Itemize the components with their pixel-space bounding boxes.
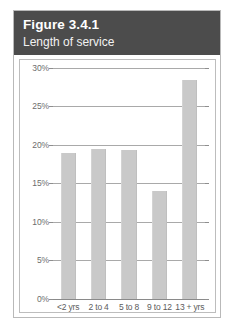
figure-header: Figure 3.4.1 Length of service xyxy=(14,11,220,55)
y-tick-label: 10% xyxy=(32,217,49,227)
x-tick-label: <2 yrs xyxy=(57,302,79,312)
y-tick-mark-right xyxy=(205,299,209,300)
y-tick-mark-right xyxy=(205,183,209,184)
x-tick-label: 9 to 12 xyxy=(147,302,172,312)
figure-title: Figure 3.4.1 xyxy=(23,16,220,33)
bar--2-yrs xyxy=(61,153,76,299)
y-tick-label: 20% xyxy=(32,140,49,150)
y-tick-label: 5% xyxy=(37,255,49,265)
y-tick-label: 30% xyxy=(32,63,49,73)
x-tick-label: 5 to 8 xyxy=(119,302,139,312)
figure-subtitle: Length of service xyxy=(23,34,220,50)
bar-2-to-4 xyxy=(91,149,106,299)
bar-13-yrs xyxy=(182,80,197,299)
bar-5-to-8 xyxy=(121,150,136,299)
chart-plot-area: 0%5%10%15%20%25%30% <2 yrs2 to 45 to 89 … xyxy=(53,68,205,299)
y-tick-mark-right xyxy=(205,222,209,223)
figure-card: Figure 3.4.1 Length of service 0%5%10%15… xyxy=(13,10,221,318)
bar-series xyxy=(53,68,205,299)
x-tick-label: 2 to 4 xyxy=(89,302,109,312)
x-axis-labels: <2 yrs2 to 45 to 89 to 1213 + yrs xyxy=(53,299,205,317)
x-tick-label: 13 + yrs xyxy=(175,302,204,312)
chart-plot-frame: 0%5%10%15%20%25%30% <2 yrs2 to 45 to 89 … xyxy=(19,59,216,313)
y-tick-mark-right xyxy=(205,145,209,146)
y-tick-label: 0% xyxy=(37,294,49,304)
y-tick-mark-right xyxy=(205,260,209,261)
y-tick-label: 15% xyxy=(32,178,49,188)
bar-9-to-12 xyxy=(152,191,167,299)
y-tick-mark-right xyxy=(205,106,209,107)
y-tick-label: 25% xyxy=(32,101,49,111)
y-tick-mark-right xyxy=(205,68,209,69)
